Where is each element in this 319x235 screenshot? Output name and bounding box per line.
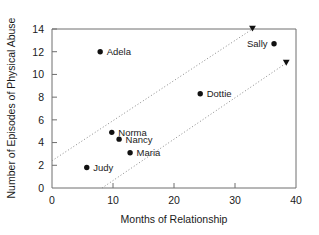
data-point-marker (198, 91, 203, 96)
y-axis-title: Number of Episodes of Physical Abuse (5, 17, 17, 198)
y-tick-label: 12 (32, 46, 44, 58)
data-point-label: Adela (107, 46, 132, 57)
data-point-marker (97, 49, 102, 54)
data-point-marker (116, 136, 121, 141)
data-point-label: Nancy (126, 134, 153, 145)
y-tick-label: 6 (38, 114, 44, 126)
y-tick-label: 4 (38, 136, 44, 148)
data-point-label: Sally (247, 38, 268, 49)
x-tick-label: 0 (49, 194, 55, 206)
data-point-label: Dottie (207, 88, 232, 99)
data-point-marker (271, 41, 276, 46)
data-point-marker (127, 150, 132, 155)
y-tick-label: 10 (32, 68, 44, 80)
data-point-label: Maria (137, 147, 161, 158)
frame-border (52, 29, 296, 188)
y-axis-ticks: 02468101214 (32, 23, 57, 194)
data-points: AdelaNormaNancyMariaJudyDottieSally (84, 38, 277, 173)
data-point-label: Judy (93, 162, 113, 173)
lower-dotted-trend-line (102, 63, 286, 188)
trend-lines (52, 26, 290, 188)
y-tick-label: 14 (32, 23, 44, 35)
trend-line-arrowhead (283, 60, 290, 66)
x-axis-title: Months of Relationship (121, 213, 228, 225)
y-tick-label: 8 (38, 91, 44, 103)
y-tick-label: 2 (38, 159, 44, 171)
scatter-plot-figure: 02468101214 010203040 AdelaNormaNancyMar… (0, 0, 319, 235)
x-tick-label: 30 (229, 194, 241, 206)
x-tick-label: 40 (290, 194, 302, 206)
x-tick-label: 20 (168, 194, 180, 206)
x-axis-ticks: 010203040 (49, 183, 302, 206)
data-point-marker (109, 130, 114, 135)
data-point-marker (84, 165, 89, 170)
plot-frame (52, 29, 296, 188)
x-tick-label: 10 (107, 194, 119, 206)
plot-canvas: 02468101214 010203040 AdelaNormaNancyMar… (0, 0, 319, 235)
y-tick-label: 0 (38, 182, 44, 194)
